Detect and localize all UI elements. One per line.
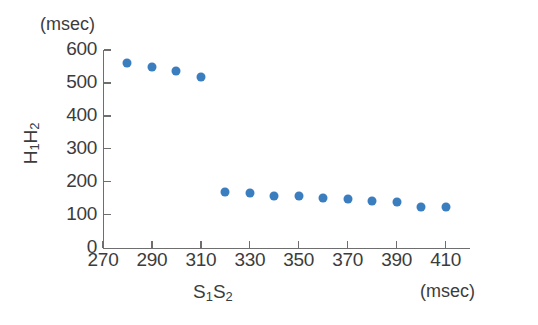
data-point-marker [196,73,205,82]
x-axis-title-s2: S [213,281,226,302]
x-axis-tick-label: 410 [416,249,476,271]
y-axis-title: H1H2 [20,103,43,183]
data-point-marker [221,188,230,197]
y-axis-tick-label: 500 [66,71,97,93]
x-axis-tick [445,241,446,248]
y-axis-tick-label: 100 [66,203,97,225]
y-axis-title-h2: H [20,130,41,144]
y-axis-unit-label: (msec) [40,14,95,35]
y-axis-tick [104,181,111,182]
scatter-chart-figure: (msec) H1H2 S1S2 (msec) 0100200300400500… [0,0,538,325]
x-axis-title-sub2: 2 [226,289,233,304]
y-axis-tick [104,115,111,116]
y-axis-tick-label: 300 [66,137,97,159]
x-axis-title-s1: S [193,281,206,302]
x-axis-unit-label: (msec) [420,281,475,302]
data-point-marker [343,194,352,203]
x-axis-title-sub1: 1 [206,289,213,304]
y-axis-tick [104,214,111,215]
x-axis-tick [200,241,201,248]
x-axis-title: S1S2 [193,281,233,304]
data-point-marker [270,191,279,200]
y-axis-tick-label: 600 [66,38,97,60]
data-point-marker [294,191,303,200]
y-axis-tick [104,49,111,50]
y-axis-tick-label: 400 [66,104,97,126]
x-axis-tick [396,241,397,248]
data-point-marker [368,196,377,205]
x-axis-tick [151,241,152,248]
data-point-marker [245,188,254,197]
data-point-marker [441,203,450,212]
y-axis-title-sub2: 2 [27,122,42,129]
y-axis-title-h1: H [20,151,41,165]
y-axis-tick [104,82,111,83]
y-axis-tick-label: 200 [66,170,97,192]
x-axis-tick [347,241,348,248]
x-axis-tick [298,241,299,248]
data-point-marker [123,58,132,67]
data-point-marker [392,197,401,206]
y-axis-tick [104,148,111,149]
data-point-marker [147,63,156,72]
data-point-marker [319,193,328,202]
x-axis-tick [249,241,250,248]
data-point-marker [172,66,181,75]
y-axis-line [103,50,104,249]
y-axis-title-sub1: 1 [27,143,42,150]
data-point-marker [417,202,426,211]
